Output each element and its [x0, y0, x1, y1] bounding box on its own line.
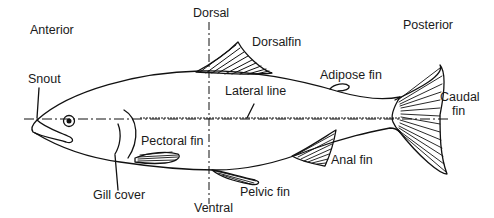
snout-leader	[37, 88, 39, 118]
mouth-outline	[32, 120, 73, 143]
pectoral-fin-label: Pectoral fin	[141, 135, 204, 148]
lateral-line-label: Lateral line	[225, 85, 286, 98]
dorsal-fin-rays	[200, 45, 269, 74]
anterior-label: Anterior	[30, 24, 74, 37]
ventral-label: Ventral	[194, 202, 233, 215]
gill-cover-inner	[115, 124, 120, 154]
snout-label: Snout	[28, 73, 61, 86]
caudal-fin-label-line2: fin	[452, 105, 465, 118]
adipose-fin-label: Adipose fin	[320, 69, 382, 82]
gill-cover-label: Gill cover	[93, 189, 145, 202]
caudal-fin-label-line1: Caudal	[440, 91, 480, 104]
pelvic-fin-rays	[216, 171, 256, 184]
dorsal-fin-label: Dorsalfin	[252, 36, 301, 49]
gill-cover-leader	[115, 155, 118, 190]
pelvic-fin-label: Pelvic fin	[240, 186, 290, 199]
anal-fin-label: Anal fin	[331, 154, 373, 167]
posterior-label: Posterior	[403, 19, 453, 32]
gill-cover-outline	[124, 110, 136, 158]
dorsal-label: Dorsal	[193, 7, 229, 20]
lateral-line-leader	[247, 104, 254, 118]
fish-anatomy-diagram: Anterior Dorsal Posterior Ventral Snout …	[0, 0, 494, 218]
